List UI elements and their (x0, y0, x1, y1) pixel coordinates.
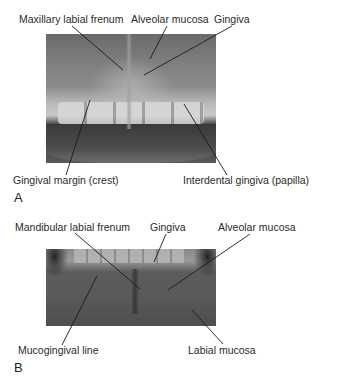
photo-maxillary-gingiva (46, 34, 216, 163)
teeth-region (74, 249, 184, 263)
frenum-region (131, 269, 139, 314)
panel-letter-a: A (14, 190, 23, 205)
label-mandibular-labial-frenum: Mandibular labial frenum (15, 221, 130, 233)
lower-lip-region (46, 124, 216, 163)
label-interdental-gingiva: Interdental gingiva (papilla) (183, 174, 309, 186)
panel-letter-b: B (14, 360, 23, 375)
label-gingival-margin: Gingival margin (crest) (13, 174, 119, 186)
label-mucogingival-line: Mucogingival line (18, 344, 99, 356)
label-alveolar-mucosa-a: Alveolar mucosa (131, 13, 209, 25)
label-alveolar-mucosa-b: Alveolar mucosa (218, 221, 296, 233)
label-maxillary-labial-frenum: Maxillary labial frenum (19, 13, 123, 25)
label-labial-mucosa: Labial mucosa (188, 344, 256, 356)
label-gingiva-a: Gingiva (214, 13, 250, 25)
label-gingiva-b: Gingiva (150, 221, 186, 233)
frenum-region (126, 34, 132, 129)
photo-mandibular-gingiva (46, 249, 216, 326)
